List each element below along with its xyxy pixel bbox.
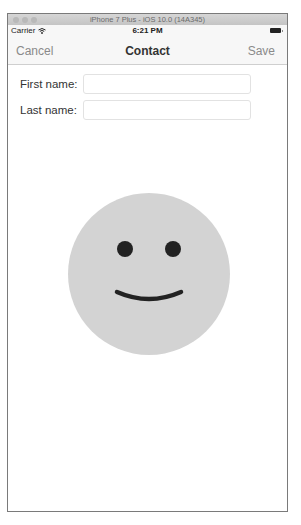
simulator-window: iPhone 7 Plus - iOS 10.0 (14A345) Carrie… — [7, 13, 288, 512]
last-name-field[interactable] — [83, 100, 251, 120]
first-name-field[interactable] — [83, 74, 251, 94]
status-bar: Carrier 6:21 PM — [8, 25, 287, 37]
nav-title: Contact — [8, 44, 287, 58]
status-time: 6:21 PM — [8, 26, 287, 35]
smiley-face-icon — [68, 193, 230, 355]
navigation-bar: Cancel Contact Save — [8, 37, 287, 65]
battery-icon — [270, 28, 281, 33]
first-name-label: First name: — [20, 78, 78, 90]
window-title: iPhone 7 Plus - iOS 10.0 (14A345) — [8, 14, 287, 25]
last-name-label: Last name: — [20, 104, 77, 116]
save-button[interactable]: Save — [248, 44, 275, 58]
